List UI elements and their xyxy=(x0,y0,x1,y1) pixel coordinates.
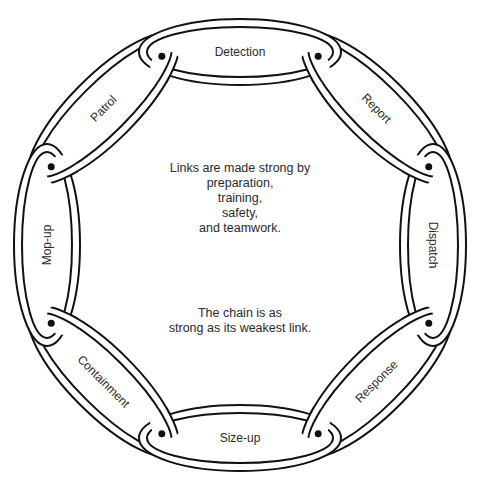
weakest-line: strong as its weakest link. xyxy=(120,321,360,336)
chain-links xyxy=(9,14,471,476)
joint-shadow xyxy=(158,53,165,60)
joint-shadow xyxy=(48,320,55,327)
link-labels: DetectionReportDispatchResponseSize-upCo… xyxy=(40,45,440,445)
motto-line: Links are made strong by xyxy=(120,161,360,176)
motto-text: Links are made strong by preparation, tr… xyxy=(120,161,360,236)
motto-line: preparation, xyxy=(120,176,360,191)
link-label-detection: Detection xyxy=(215,45,266,59)
link-label-mop-up: Mop-up xyxy=(40,224,54,265)
joint-shadow xyxy=(315,53,322,60)
joint-shadow xyxy=(425,163,432,170)
link-label-dispatch: Dispatch xyxy=(426,222,440,269)
motto-line: and teamwork. xyxy=(120,221,360,236)
weakest-line: The chain is as xyxy=(120,306,360,321)
joint-shadow xyxy=(425,320,432,327)
link-label-size-up: Size-up xyxy=(220,431,261,445)
joint-shadow xyxy=(315,430,322,437)
joint-shadow xyxy=(158,430,165,437)
weakest-link-text: The chain is as strong as its weakest li… xyxy=(120,306,360,336)
joint-shadow xyxy=(48,163,55,170)
motto-line: training, xyxy=(120,191,360,206)
motto-line: safety, xyxy=(120,206,360,221)
chain-diagram: DetectionReportDispatchResponseSize-upCo… xyxy=(0,0,481,480)
